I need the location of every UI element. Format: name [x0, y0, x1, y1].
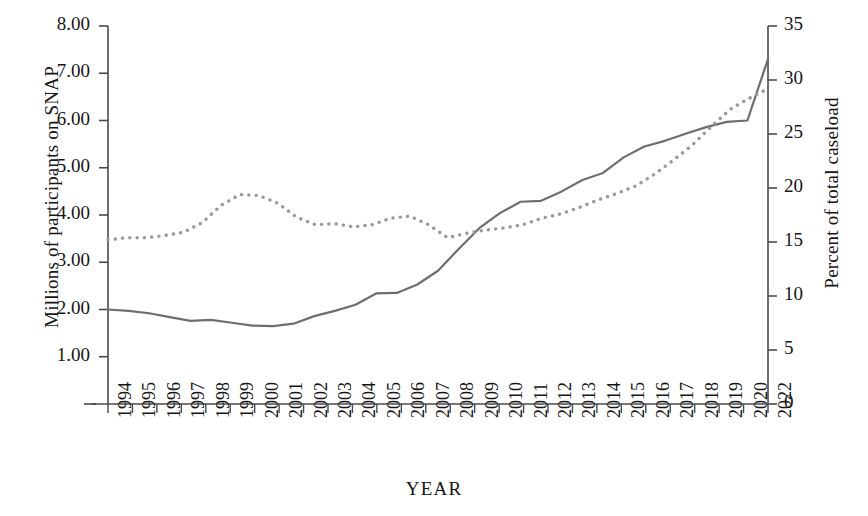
x-axis-tick-label: 2007 [433, 382, 454, 418]
y-axis-right-tick-label: 5 [784, 337, 824, 359]
y-axis-left-tick-label: 8.00 [16, 13, 90, 35]
y-axis-left-tick-label: 2.00 [16, 297, 90, 319]
x-axis-tick-label: 2019 [726, 382, 747, 418]
x-axis-tick-label: 2011 [531, 383, 552, 418]
x-axis-tick-label: 2013 [579, 382, 600, 418]
x-axis-tick-label: 2014 [604, 382, 625, 418]
x-axis-tick-label: 2018 [702, 382, 723, 418]
x-axis-tick-label: 2006 [408, 382, 429, 418]
x-axis-tick-label: 1999 [237, 382, 258, 418]
chart-figure: Millions of participants on SNAP Percent… [0, 0, 868, 516]
x-axis-tick-label: 1997 [188, 382, 209, 418]
x-axis-tick-label: 2022 [775, 382, 796, 418]
x-axis-tick-label: 2012 [555, 382, 576, 418]
x-axis-tick-label: 1996 [164, 382, 185, 418]
x-axis-tick-label: 2000 [262, 382, 283, 418]
series-line-snap-participants [108, 59, 768, 326]
y-axis-left-tick-label: 3.00 [16, 249, 90, 271]
x-axis-tick-label: 1995 [139, 382, 160, 418]
plot-area [0, 0, 868, 516]
x-axis-tick-label: 2015 [628, 382, 649, 418]
x-axis-tick-label: 2017 [677, 382, 698, 418]
x-axis-tick-label: 2003 [335, 382, 356, 418]
x-axis-tick-label: 2008 [457, 382, 478, 418]
x-axis-tick-label: 2004 [359, 382, 380, 418]
y-axis-right-tick-label: 25 [784, 121, 824, 143]
y-axis-left-tick-label: 5.00 [16, 155, 90, 177]
y-axis-left-tick-label: 6.00 [16, 108, 90, 130]
x-axis-tick-label: 2009 [482, 382, 503, 418]
x-axis-tick-label: 2002 [311, 382, 332, 418]
y-axis-right-tick-label: 10 [784, 283, 824, 305]
y-axis-right-tick-label: 15 [784, 229, 824, 251]
y-axis-right-tick-label: 30 [784, 67, 824, 89]
y-axis-right-tick-label: 35 [784, 13, 824, 35]
x-axis-tick-label: 2005 [384, 382, 405, 418]
series-line-percent-caseload [108, 89, 768, 240]
y-axis-left-tick-label: 4.00 [16, 202, 90, 224]
x-axis-tick-label: 2020 [751, 382, 772, 418]
y-axis-left-tick-label: 1.00 [16, 344, 90, 366]
x-axis-tick-label: 1994 [115, 382, 136, 418]
x-axis-tick-label: 2001 [286, 382, 307, 418]
x-axis-tick-label: 2010 [506, 382, 527, 418]
x-axis-tick-label: 2016 [653, 382, 674, 418]
y-axis-left-tick-label: 7.00 [16, 60, 90, 82]
x-axis-tick-label: 1998 [213, 382, 234, 418]
y-axis-right-tick-label: 20 [784, 175, 824, 197]
